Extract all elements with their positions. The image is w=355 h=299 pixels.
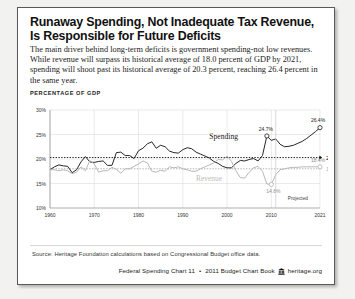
chart-description: The main driver behind long-term deficit… [30,45,324,86]
footer-bar: Federal Spending Chart 11 • 2011 Budget … [119,267,322,274]
footer-divider [30,245,322,246]
data-label: 26.4% [311,117,326,123]
data-label: 18.4% [311,157,326,163]
y-axis-tick-label: 25% [36,132,47,138]
data-point-marker [318,165,322,169]
y-axis-tick-label: 20% [36,156,47,162]
projection-note: Projected [288,196,309,201]
x-axis-tick-label: 2010 [266,212,277,218]
reference-line-label: 18.0% Revenue [326,166,328,172]
series-label-revenue: Revenue [196,174,223,183]
data-point-marker [265,134,269,138]
reference-line-label: 20.3% Spending [326,155,328,161]
website-link[interactable]: heritage.org [288,267,322,274]
data-point-marker [269,182,273,186]
heritage-building-icon [278,268,285,275]
page-title: Runaway Spending, Not Inadequate Tax Rev… [30,16,325,43]
x-axis-tick-label: 2000 [221,212,232,218]
data-label: 14.8% [266,188,281,194]
chart-plot-area: 10%15%20%25%30%1960197019801990200020102… [28,100,328,230]
data-point-marker [318,126,322,130]
footer-separator: • [199,267,201,274]
y-axis-tick-label: 10% [36,205,47,211]
y-axis-tick-label: 30% [36,107,47,113]
y-axis-tick-label: 15% [36,181,47,187]
x-axis-tick-label: 1980 [133,212,144,218]
chart-card: Runaway Spending, Not Inadequate Tax Rev… [17,7,335,285]
x-axis-tick-label: 1970 [89,212,100,218]
x-axis-tick-label: 1990 [177,212,188,218]
source-note: Source: Heritage Foundation calculations… [32,251,260,257]
x-axis-tick-label: 1960 [44,212,55,218]
x-axis-tick-label: 2021 [314,212,325,218]
series-label-spending: Spending [209,132,238,141]
line-chart-svg: 10%15%20%25%30%1960197019801990200020102… [28,100,328,230]
series-line-revenue [50,156,320,184]
data-label: 24.7% [259,126,274,132]
y-axis-caption: PERCENTAGE OF GDP [30,90,101,96]
chart-book-label: 2011 Budget Chart Book [205,267,275,274]
chart-reference-label: Federal Spending Chart 11 [119,267,195,274]
